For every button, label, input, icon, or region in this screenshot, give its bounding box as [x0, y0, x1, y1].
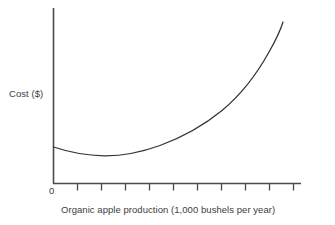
x-axis-label: Organic apple production (1,000 bushels … [61, 205, 275, 216]
chart-container: Cost ($) 0 Organic apple production (1,0… [0, 0, 335, 225]
x-axis-tick-marks [78, 184, 294, 191]
y-axis-label: Cost ($) [9, 89, 43, 100]
cost-curve-line [54, 22, 284, 156]
axis-origin-label: 0 [49, 186, 54, 197]
